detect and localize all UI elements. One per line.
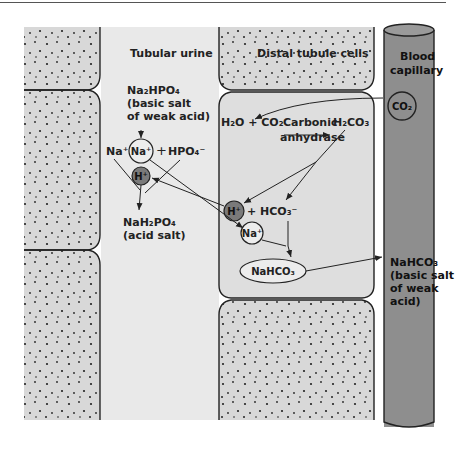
anhydrase-label: anhydrase (280, 131, 345, 144)
co2-label: CO₂ (392, 101, 412, 112)
na2hpo4-label: Na₂HPO₄ (127, 84, 180, 97)
blood-nahco3-desc-3: acid) (390, 295, 421, 308)
na-ion-label-cell: Na⁺ (242, 228, 262, 239)
hco3-label: + HCO₃⁻ (247, 205, 297, 218)
na2hpo4-desc-1: (basic salt (127, 97, 191, 110)
blood-nahco3-desc-1: (basic salt (390, 269, 454, 282)
diagram-canvas: Na⁺ H⁺ H⁺ Na⁺ NaHCO₃ CO₂ (0, 0, 456, 455)
carbonic-label: Carbonic (283, 116, 337, 129)
nahco3-oval-label: NaHCO₃ (251, 266, 295, 277)
na-ion-label: Na⁺ (131, 146, 151, 157)
blood-capillary-title-1: Blood (400, 50, 435, 63)
blood-nahco3-desc-2: of weak (390, 282, 439, 295)
na-plus-left: Na⁺ (106, 145, 128, 158)
distal-tubule-wall (219, 27, 374, 420)
tubular-urine-title: Tubular urine (130, 47, 213, 60)
plus-sign: + (156, 144, 167, 157)
hpo4-label: HPO₄⁻ (168, 145, 205, 158)
nah2po4-desc: (acid salt) (123, 229, 185, 242)
blood-nahco3-label: NaHCO₃ (390, 256, 438, 269)
h2co3-label: H₂CO₃ (333, 116, 369, 129)
blood-capillary (384, 24, 434, 427)
h2o-co2-label: H₂O + CO₂ (221, 116, 284, 129)
blood-capillary-title-2: capillary (390, 64, 443, 77)
h-ion-label: H⁺ (134, 171, 148, 182)
left-tubule-wall (24, 27, 100, 420)
na2hpo4-desc-2: of weak acid) (127, 110, 210, 123)
distal-tubule-title: Distal tubule cells (257, 47, 369, 60)
h-ion-label-cell: H⁺ (227, 206, 241, 217)
nah2po4-label: NaH₂PO₄ (123, 216, 176, 229)
